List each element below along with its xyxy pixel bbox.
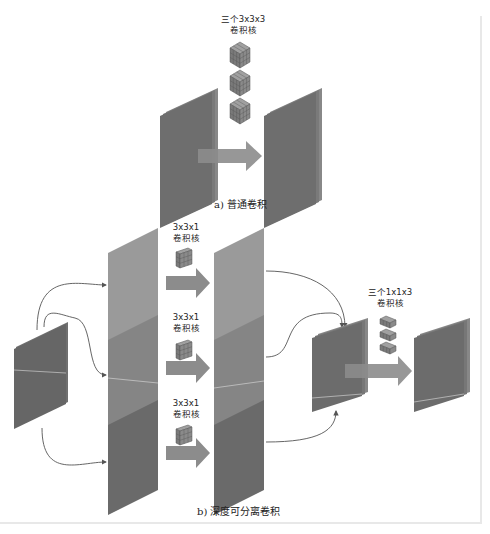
caption-a: a) 普通卷积 bbox=[214, 196, 267, 211]
depthwise-label-3-line2: 卷积核 bbox=[166, 409, 206, 420]
kernel-stack-a bbox=[230, 42, 250, 124]
depthwise-label-3: 3x3x1 卷积核 bbox=[166, 398, 206, 420]
pointwise-label-line2: 卷积核 bbox=[362, 298, 418, 309]
page-border-bottom bbox=[0, 522, 482, 524]
output-feature-map-a bbox=[264, 88, 322, 228]
output-feature-map-b bbox=[414, 318, 470, 412]
depthwise-label-2: 3x3x1 卷积核 bbox=[166, 312, 206, 334]
kernel-label-a-line2: 卷积核 bbox=[215, 25, 271, 36]
depthwise-label-2-line2: 卷积核 bbox=[166, 323, 206, 334]
depthwise-label-1-line2: 卷积核 bbox=[166, 233, 206, 244]
diagram-canvas bbox=[0, 0, 490, 534]
kernel-label-a: 三个3x3x3 卷积核 bbox=[215, 14, 271, 36]
depthwise-kernel-1 bbox=[176, 248, 192, 268]
depthwise-label-2-line1: 3x3x1 bbox=[166, 312, 206, 323]
kernel-label-a-line1: 三个3x3x3 bbox=[215, 14, 271, 25]
pointwise-kernel-stack bbox=[380, 316, 396, 354]
pointwise-label-line1: 三个1x1x3 bbox=[362, 287, 418, 298]
depthwise-label-1-line1: 3x3x1 bbox=[166, 222, 206, 233]
depthwise-kernel-2 bbox=[176, 340, 192, 360]
input-feature-map-b bbox=[14, 322, 68, 429]
pointwise-label: 三个1x1x3 卷积核 bbox=[362, 287, 418, 309]
caption-b: b) 深度可分离卷积 bbox=[197, 503, 280, 518]
depthwise-kernel-3 bbox=[176, 425, 192, 445]
page-border-right bbox=[480, 16, 482, 524]
depthwise-label-3-line1: 3x3x1 bbox=[166, 398, 206, 409]
depthwise-label-1: 3x3x1 卷积核 bbox=[166, 222, 206, 244]
